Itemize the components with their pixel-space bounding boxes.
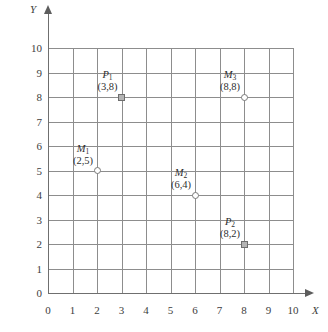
data-point-coordinates: (2,5) — [73, 155, 93, 167]
data-point-label: M3(8,8) — [220, 69, 240, 93]
x-axis-tick-label: 7 — [217, 305, 223, 316]
y-axis-tick-label: 1 — [37, 263, 43, 274]
data-point-coordinates: (6,4) — [171, 179, 191, 191]
data-point-name: M1 — [73, 143, 93, 155]
y-axis-tick-label: 6 — [37, 141, 43, 152]
data-point-subscript: 1 — [109, 73, 113, 82]
x-axis-label: X — [312, 305, 319, 316]
data-point-subscript: 2 — [184, 171, 188, 180]
y-axis-tick-label: 3 — [37, 214, 43, 225]
gridline-vertical — [195, 48, 196, 293]
x-axis-tick-label: 9 — [266, 305, 272, 316]
y-axis-line — [48, 14, 49, 293]
data-point-name: P1 — [97, 69, 117, 81]
data-point-subscript: 2 — [231, 220, 235, 229]
x-axis-tick-label: 4 — [143, 305, 149, 316]
data-point-marker — [192, 192, 199, 199]
x-axis-tick-label: 10 — [288, 305, 299, 316]
gridline-vertical — [244, 48, 245, 293]
gridline-vertical — [122, 48, 123, 293]
y-axis-label: Y — [30, 4, 36, 15]
data-point-marker — [241, 94, 248, 101]
y-axis-tick-label: 10 — [31, 43, 42, 54]
coordinate-plane-chart: 012345678910012345678910XYP1(3,8)M3(8,8)… — [0, 0, 328, 332]
data-point-coordinates: (8,8) — [220, 81, 240, 93]
y-axis-tick-label: 5 — [37, 165, 43, 176]
y-axis-tick-label: 8 — [37, 92, 43, 103]
data-point-subscript: 3 — [233, 73, 237, 82]
data-point-coordinates: (8,2) — [220, 228, 240, 240]
data-point-marker — [241, 241, 248, 248]
data-point-marker — [118, 94, 125, 101]
gridline-vertical — [146, 48, 147, 293]
data-point-subscript: 1 — [86, 147, 90, 156]
gridline-vertical — [293, 48, 294, 293]
x-axis-tick-label: 5 — [168, 305, 174, 316]
data-point-name: M3 — [220, 69, 240, 81]
y-axis-tick-label: 9 — [37, 67, 43, 78]
data-point-label: M1(2,5) — [73, 143, 93, 167]
x-axis-tick-label: 1 — [70, 305, 76, 316]
data-point-coordinates: (3,8) — [97, 81, 117, 93]
data-point-name: P2 — [220, 216, 240, 228]
x-axis-tick-label: 0 — [45, 305, 51, 316]
x-axis-line — [48, 293, 307, 294]
data-point-label: P1(3,8) — [97, 69, 117, 93]
data-point-label: M2(6,4) — [171, 167, 191, 191]
data-point-name: M2 — [171, 167, 191, 179]
x-axis-tick-label: 8 — [241, 305, 247, 316]
x-axis-tick-label: 6 — [192, 305, 198, 316]
y-axis-tick-label: 2 — [37, 239, 43, 250]
y-axis-tick-label: 0 — [37, 288, 43, 299]
data-point-marker — [94, 167, 101, 174]
y-axis-tick-label: 4 — [37, 190, 43, 201]
gridline-vertical — [269, 48, 270, 293]
data-point-label: P2(8,2) — [220, 216, 240, 240]
y-axis-tick-label: 7 — [37, 116, 43, 127]
x-axis-tick-label: 2 — [94, 305, 100, 316]
x-axis-arrow-icon — [305, 289, 314, 297]
x-axis-tick-label: 3 — [119, 305, 125, 316]
y-axis-arrow-icon — [44, 5, 52, 14]
gridline-vertical — [73, 48, 74, 293]
